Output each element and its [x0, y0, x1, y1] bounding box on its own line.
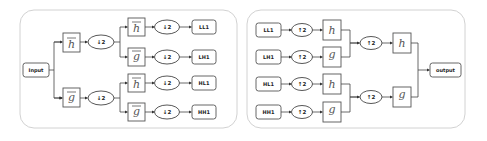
downsample-l2-4: ↓2 [155, 105, 180, 119]
synth-filter-g-4: g [323, 102, 341, 122]
upsample-label: ↑2 [298, 109, 307, 115]
downsample-l2-2: ↓2 [155, 50, 180, 64]
filter-label: g [68, 91, 75, 104]
subband-label: HH1 [263, 109, 275, 115]
recon-input-LH1: LH1 [256, 50, 281, 64]
upsample-label: ↑2 [367, 94, 376, 100]
subband-HH1: HH1 [192, 105, 216, 119]
wavelet-diagram: Input h g ↓2 ↓2 h g [0, 0, 487, 141]
filter-label: g [133, 50, 140, 63]
recon-input-HH1: HH1 [256, 105, 281, 119]
filter-h-bar-l2-3: h [128, 74, 145, 92]
synth-filter-h-3: h [323, 74, 341, 94]
upsample-label: ↑2 [298, 54, 307, 60]
subband-label: LH1 [199, 54, 210, 60]
synth-filter-g-final: g [393, 87, 411, 107]
output-node: output [430, 63, 461, 77]
downsample-l2-1: ↓2 [155, 20, 180, 34]
downsample-label: ↓2 [163, 24, 172, 30]
synth-filter-h-1: h [323, 20, 341, 40]
downsample-l1-top: ↓2 [88, 35, 114, 49]
upsample-2: ↑2 [292, 51, 313, 64]
filter-label: g [398, 88, 405, 101]
subband-HL1: HL1 [192, 76, 216, 90]
filter-label: g [328, 103, 335, 116]
upsample-1: ↑2 [292, 24, 313, 37]
upsample-4: ↑2 [292, 106, 313, 119]
filter-h-bar-l1: h [63, 33, 80, 52]
downsample-label: ↓2 [163, 54, 172, 60]
downsample-label: ↓2 [97, 39, 106, 45]
upsample-label: ↑2 [298, 81, 307, 87]
filter-h-bar-l2-1: h [128, 18, 145, 36]
filter-label: h [328, 78, 335, 91]
filter-g-bar-l2-4: g [128, 103, 145, 121]
downsample-label: ↓2 [163, 80, 172, 86]
filter-label: h [133, 22, 140, 35]
subband-LL1: LL1 [192, 20, 216, 34]
downsample-l1-bottom: ↓2 [88, 91, 114, 105]
input-node: Input [23, 63, 49, 77]
filter-g-bar-l2-2: g [128, 48, 145, 66]
subband-label: LL1 [264, 27, 274, 33]
output-label: output [436, 67, 456, 74]
recon-input-HL1: HL1 [256, 77, 281, 91]
subband-label: LL1 [199, 24, 209, 30]
recon-input-LL1: LL1 [256, 23, 281, 37]
downsample-label: ↓2 [163, 109, 172, 115]
filter-g-bar-l1: g [63, 88, 80, 107]
upsample-label: ↑2 [367, 40, 376, 46]
subband-label: HH1 [198, 109, 210, 115]
upsample-label: ↑2 [298, 27, 307, 33]
filter-label: h [398, 37, 405, 50]
filter-label: g [328, 48, 335, 61]
subband-label: HL1 [263, 81, 274, 87]
upsample-merge-top: ↑2 [360, 37, 382, 50]
filter-label: h [133, 78, 140, 91]
input-label: Input [29, 67, 45, 74]
upsample-merge-bottom: ↑2 [360, 91, 382, 104]
upsample-3: ↑2 [292, 78, 313, 91]
subband-LH1: LH1 [192, 50, 216, 64]
filter-label: g [133, 105, 140, 118]
filter-label: h [328, 24, 335, 37]
synth-filter-g-2: g [323, 47, 341, 67]
filter-label: h [68, 38, 75, 51]
subband-label: HL1 [199, 80, 210, 86]
subband-label: LH1 [263, 54, 274, 60]
synth-filter-h-final: h [393, 33, 411, 53]
downsample-l2-3: ↓2 [155, 76, 180, 90]
downsample-label: ↓2 [97, 95, 106, 101]
